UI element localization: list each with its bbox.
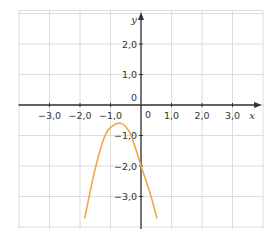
x-axis-label: x bbox=[249, 110, 255, 121]
x-tick-label: −2,0 bbox=[68, 110, 91, 121]
y-tick-label: −1,0 bbox=[114, 130, 137, 141]
x-tick-label: 1,0 bbox=[164, 110, 179, 121]
x-tick-label: −3,0 bbox=[38, 110, 61, 121]
x-axis-arrow-icon bbox=[254, 102, 262, 108]
x-tick-label: −1,0 bbox=[99, 110, 122, 121]
parabola-chart: −3,0−2,0−1,01,02,03,02,01,0−1,0−2,0−3,00… bbox=[0, 0, 273, 239]
y-axis-label: y bbox=[130, 14, 137, 25]
x-tick-label: 3,0 bbox=[225, 110, 240, 121]
tick-labels: −3,0−2,0−1,01,02,03,02,01,0−1,0−2,0−3,00… bbox=[38, 14, 255, 202]
origin-label-y: 0 bbox=[131, 92, 137, 103]
y-tick-label: −3,0 bbox=[114, 191, 137, 202]
y-tick-label: −2,0 bbox=[114, 161, 137, 172]
x-tick-label: 2,0 bbox=[194, 110, 209, 121]
origin-label-x: 0 bbox=[145, 109, 151, 120]
y-tick-label: 1,0 bbox=[122, 69, 137, 80]
y-tick-label: 2,0 bbox=[122, 39, 137, 50]
